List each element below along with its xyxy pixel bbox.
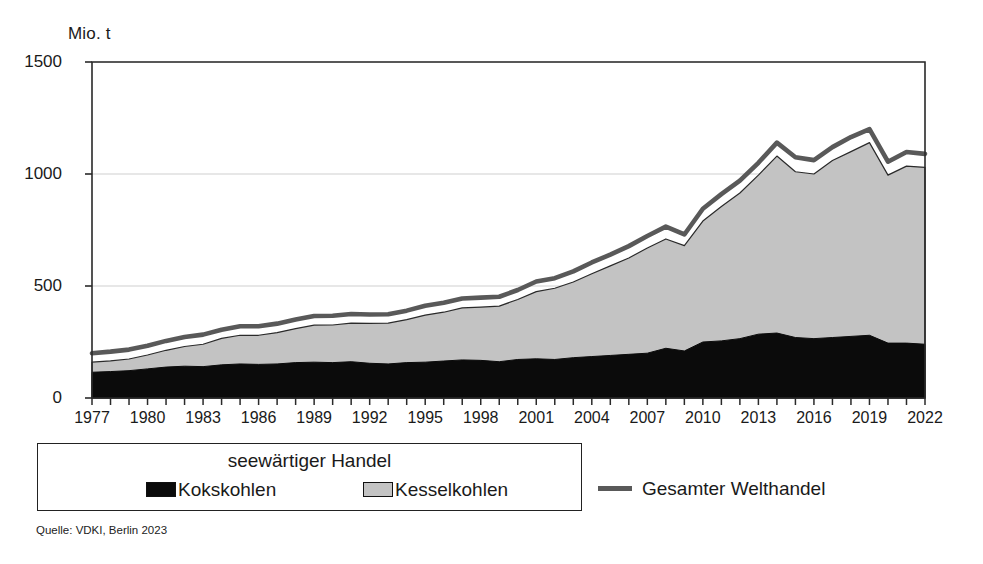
chart-figure: Mio. t 050010001500 19771980198319861989… [0,0,983,564]
legend-item-kesselkohlen: Kesselkohlen [363,480,508,499]
legend-seaborne: seewärtiger Handel KokskohlenKesselkohle… [37,443,582,511]
source-note: Quelle: VDKI, Berlin 2023 [36,524,167,536]
legend-item-label: Kokskohlen [178,480,276,499]
gray-swatch-icon [363,482,393,497]
legend-title: seewärtiger Handel [38,450,581,472]
legend-item-kokskohlen: Kokskohlen [146,480,276,499]
line-swatch-icon [598,486,632,491]
legend-item-label: Kesselkohlen [395,480,508,499]
black-swatch-icon [146,482,176,497]
legend-total-world-trade: Gesamter Welthandel [598,479,825,498]
legend-line-label: Gesamter Welthandel [642,479,825,498]
legend-entry-row: KokskohlenKesselkohlen [38,480,581,506]
